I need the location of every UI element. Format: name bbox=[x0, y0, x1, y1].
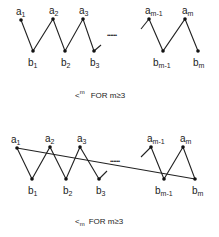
poset-diagrams: a1 a2 a3 am-1 am b1 b2 b3 bm-1 bm ••••••… bbox=[0, 0, 219, 237]
label-bm-1: bm-1 bbox=[155, 185, 173, 197]
continuation-tick-left bbox=[141, 147, 151, 157]
vertex-a1 bbox=[19, 18, 23, 22]
vertex-bm bbox=[196, 49, 200, 53]
continuation-tick-left bbox=[141, 19, 149, 29]
vertex-b2 bbox=[64, 177, 68, 181]
zigzag-edges-left bbox=[21, 19, 94, 51]
vertex-bm-1 bbox=[161, 49, 165, 53]
label-b1: b1 bbox=[28, 57, 38, 69]
vertex-am bbox=[183, 17, 187, 21]
label-bm: bm bbox=[192, 185, 204, 197]
label-a1: a1 bbox=[11, 134, 21, 146]
caption-top: <mFOR m≥3 bbox=[75, 89, 126, 100]
vertex-b1 bbox=[30, 177, 34, 181]
label-b2: b2 bbox=[61, 57, 71, 69]
long-edge-a1-bm bbox=[17, 148, 195, 179]
bottom-diagram: a1 a2 a3 am-1 am b1 b2 b3 bm-1 bm ••••••… bbox=[11, 133, 204, 227]
vertex-b3 bbox=[92, 49, 96, 53]
vertex-a1 bbox=[15, 146, 19, 150]
label-am-1: am-1 bbox=[145, 5, 163, 17]
ellipsis-dots: •••••• bbox=[107, 32, 117, 38]
label-a3: a3 bbox=[79, 5, 89, 17]
vertex-am bbox=[181, 145, 185, 149]
zigzag-edges-right bbox=[151, 147, 195, 179]
vertex-a2 bbox=[51, 17, 55, 21]
vertex-a2 bbox=[48, 145, 52, 149]
label-a3: a3 bbox=[77, 133, 87, 145]
vertex-b2 bbox=[63, 49, 67, 53]
zigzag-edges-right bbox=[149, 19, 198, 51]
vertex-a3 bbox=[81, 17, 85, 21]
vertex-bm-1 bbox=[162, 177, 166, 181]
label-b1: b1 bbox=[28, 185, 38, 197]
label-a2: a2 bbox=[45, 133, 55, 145]
label-b2: b2 bbox=[63, 185, 73, 197]
vertex-am-1 bbox=[147, 17, 151, 21]
caption-bottom: <mFOR m≥3 bbox=[75, 217, 124, 227]
zigzag-edges-left bbox=[17, 147, 99, 179]
label-bm-1: bm-1 bbox=[153, 57, 171, 69]
label-am-1: am-1 bbox=[147, 133, 165, 145]
label-b3: b3 bbox=[96, 185, 106, 197]
label-am: am bbox=[180, 133, 192, 145]
label-a2: a2 bbox=[49, 5, 59, 17]
top-diagram: a1 a2 a3 am-1 am b1 b2 b3 bm-1 bm ••••••… bbox=[16, 5, 205, 100]
label-am: am bbox=[182, 5, 194, 17]
ellipsis-dots: •••••• bbox=[110, 158, 120, 164]
vertex-b3 bbox=[97, 177, 101, 181]
label-a1: a1 bbox=[16, 6, 26, 18]
label-b3: b3 bbox=[90, 57, 100, 69]
vertex-bm bbox=[193, 177, 197, 181]
vertex-am-1 bbox=[149, 145, 153, 149]
vertex-b1 bbox=[31, 49, 35, 53]
label-bm: bm bbox=[193, 57, 205, 69]
vertex-a3 bbox=[78, 145, 82, 149]
